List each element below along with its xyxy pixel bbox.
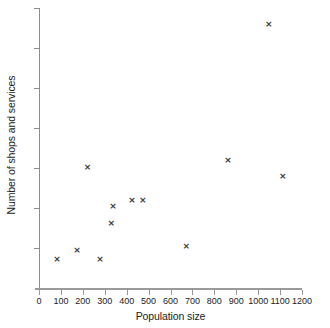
- x-tick: [280, 290, 281, 295]
- y-axis-title: Number of shops and services: [4, 0, 18, 290]
- data-point: ×: [109, 202, 118, 211]
- x-tick: [127, 290, 128, 295]
- data-point: ×: [182, 242, 191, 251]
- x-tick: [302, 290, 303, 295]
- data-point: ×: [52, 255, 61, 264]
- x-axis-line: [35, 288, 302, 290]
- y-axis-line: [39, 8, 40, 289]
- x-tick: [39, 290, 40, 295]
- y-tick: [34, 208, 39, 209]
- data-point: ×: [83, 163, 92, 172]
- x-axis-title: Population size: [39, 310, 302, 322]
- data-point: ×: [73, 246, 82, 255]
- x-tick: [149, 290, 150, 295]
- y-tick: [34, 128, 39, 129]
- y-tick: [34, 168, 39, 169]
- x-tick: [61, 290, 62, 295]
- x-tick: [171, 290, 172, 295]
- x-tick: [258, 290, 259, 295]
- scatter-chart: 5101520253035 01002003004005006007008009…: [0, 0, 330, 328]
- y-tick: [34, 88, 39, 89]
- data-point: ×: [278, 172, 287, 181]
- x-tick: [236, 290, 237, 295]
- x-tick-label: 1200: [282, 296, 322, 306]
- data-point: ×: [223, 156, 232, 165]
- y-tick: [34, 248, 39, 249]
- x-tick: [192, 290, 193, 295]
- x-tick: [83, 290, 84, 295]
- data-point: ×: [264, 20, 273, 29]
- x-tick: [214, 290, 215, 295]
- data-point: ×: [127, 196, 136, 205]
- data-point: ×: [95, 255, 104, 264]
- data-point: ×: [107, 219, 116, 228]
- x-tick: [105, 290, 106, 295]
- data-point: ×: [138, 196, 147, 205]
- y-tick: [34, 8, 39, 9]
- y-tick: [34, 48, 39, 49]
